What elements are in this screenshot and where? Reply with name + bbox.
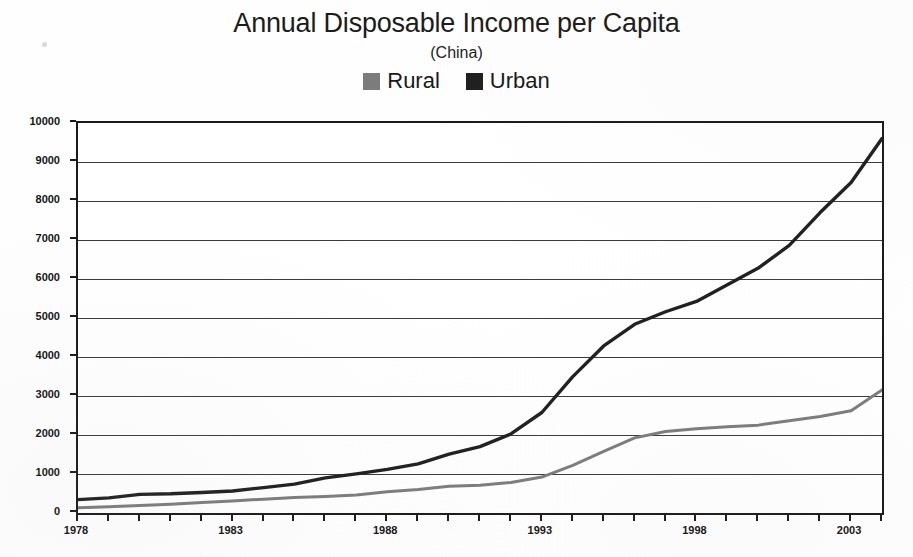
x-tick-mark xyxy=(787,513,789,521)
legend-swatch-urban xyxy=(466,73,483,90)
chart-subtitle: (China) xyxy=(0,44,913,62)
y-tick-label: 8000 xyxy=(36,193,60,205)
x-tick-mark xyxy=(447,513,449,521)
y-tick-label: 1000 xyxy=(36,466,60,478)
x-tick-mark xyxy=(478,513,480,521)
x-tick-mark xyxy=(385,513,387,521)
x-axis-ticks xyxy=(76,513,880,522)
legend-entry-rural: Rural xyxy=(363,70,440,92)
x-tick-mark xyxy=(169,513,171,521)
x-tick-mark xyxy=(818,513,820,521)
legend-label-rural: Rural xyxy=(387,70,440,92)
legend-label-urban: Urban xyxy=(490,70,550,92)
y-tick-label: 4000 xyxy=(36,349,60,361)
x-tick-mark xyxy=(292,513,294,521)
legend-swatch-rural xyxy=(363,73,380,90)
y-tick-label: 3000 xyxy=(36,388,60,400)
x-tick-mark xyxy=(756,513,758,521)
y-tick-label: 9000 xyxy=(36,154,60,166)
x-tick-label: 1978 xyxy=(64,524,88,536)
y-tick-label: 7000 xyxy=(36,232,60,244)
x-tick-mark xyxy=(416,513,418,521)
x-tick-mark xyxy=(880,513,882,521)
x-tick-mark xyxy=(849,513,851,521)
y-tick-label: 0 xyxy=(54,505,60,517)
x-tick-label: 1998 xyxy=(682,524,706,536)
x-tick-label: 2003 xyxy=(837,524,861,536)
x-tick-mark xyxy=(540,513,542,521)
chart-legend: Rural Urban xyxy=(0,70,913,92)
series-lines xyxy=(78,123,882,513)
x-tick-mark xyxy=(138,513,140,521)
plot-area xyxy=(76,121,884,515)
y-tick-label: 6000 xyxy=(36,271,60,283)
chart-title: Annual Disposable Income per Capita xyxy=(0,8,913,39)
x-tick-mark xyxy=(107,513,109,521)
series-line-urban xyxy=(78,139,882,500)
chart-page: Annual Disposable Income per Capita (Chi… xyxy=(0,0,913,557)
x-tick-mark xyxy=(200,513,202,521)
x-tick-mark xyxy=(354,513,356,521)
x-tick-mark xyxy=(323,513,325,521)
legend-entry-urban: Urban xyxy=(466,70,550,92)
x-tick-mark xyxy=(509,513,511,521)
x-tick-mark xyxy=(231,513,233,521)
y-tick-label: 10000 xyxy=(29,115,60,127)
x-tick-mark xyxy=(262,513,264,521)
y-axis: 0100020003000400050006000700080009000100… xyxy=(0,121,68,511)
x-tick-label: 1993 xyxy=(528,524,552,536)
x-tick-mark xyxy=(633,513,635,521)
x-axis-labels: 197819831988199319982003 xyxy=(0,524,913,544)
x-tick-mark xyxy=(76,513,78,521)
series-line-rural xyxy=(78,390,882,508)
x-tick-mark xyxy=(602,513,604,521)
x-tick-mark xyxy=(571,513,573,521)
x-tick-mark xyxy=(664,513,666,521)
x-tick-label: 1983 xyxy=(218,524,242,536)
y-tick-label: 5000 xyxy=(36,310,60,322)
x-tick-label: 1988 xyxy=(373,524,397,536)
x-tick-mark xyxy=(725,513,727,521)
y-tick-label: 2000 xyxy=(36,427,60,439)
x-tick-mark xyxy=(694,513,696,521)
